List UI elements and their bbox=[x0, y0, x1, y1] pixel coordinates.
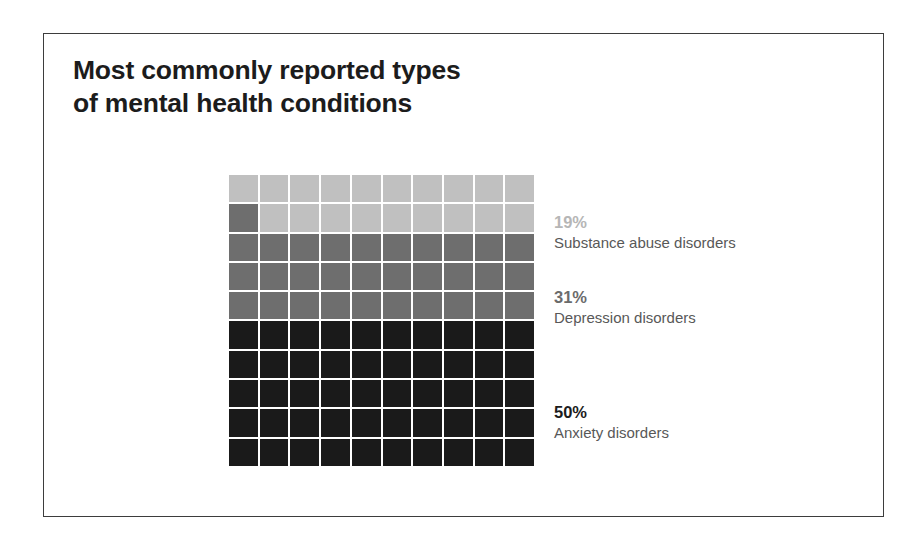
waffle-cell bbox=[444, 204, 473, 231]
waffle-cell bbox=[321, 234, 350, 261]
waffle-cell bbox=[444, 380, 473, 407]
waffle-cell bbox=[475, 321, 504, 348]
waffle-cell bbox=[413, 234, 442, 261]
legend-value: 19% bbox=[554, 212, 854, 233]
waffle-cell bbox=[413, 321, 442, 348]
waffle-cell bbox=[505, 204, 534, 231]
waffle-cell bbox=[260, 204, 289, 231]
waffle-cell bbox=[383, 321, 412, 348]
waffle-cell bbox=[475, 234, 504, 261]
waffle-cell bbox=[290, 351, 319, 378]
waffle-cell bbox=[444, 175, 473, 202]
waffle-cell bbox=[444, 263, 473, 290]
waffle-cell bbox=[413, 439, 442, 466]
waffle-cell bbox=[475, 175, 504, 202]
waffle-cell bbox=[505, 263, 534, 290]
waffle-cell bbox=[260, 380, 289, 407]
legend-label: Anxiety disorders bbox=[554, 424, 854, 443]
waffle-cell bbox=[229, 234, 258, 261]
waffle-cell bbox=[444, 351, 473, 378]
waffle-cell bbox=[413, 204, 442, 231]
waffle-cell bbox=[352, 204, 381, 231]
waffle-cell bbox=[505, 380, 534, 407]
waffle-cell bbox=[321, 409, 350, 436]
waffle-cell bbox=[352, 234, 381, 261]
legend-item: 31%Depression disorders bbox=[554, 287, 854, 327]
waffle-cell bbox=[475, 409, 504, 436]
page-title: Most commonly reported types of mental h… bbox=[73, 54, 593, 121]
waffle-cell bbox=[229, 175, 258, 202]
waffle-cell bbox=[352, 351, 381, 378]
waffle-cell bbox=[260, 409, 289, 436]
waffle-cell bbox=[413, 351, 442, 378]
waffle-cell bbox=[383, 439, 412, 466]
waffle-cell bbox=[505, 321, 534, 348]
waffle-cell bbox=[352, 380, 381, 407]
waffle-cell bbox=[475, 204, 504, 231]
waffle-cell bbox=[383, 292, 412, 319]
waffle-cell bbox=[229, 439, 258, 466]
waffle-cell bbox=[290, 263, 319, 290]
infographic-card: Most commonly reported types of mental h… bbox=[43, 33, 884, 517]
waffle-cell bbox=[321, 439, 350, 466]
waffle-cell bbox=[505, 234, 534, 261]
waffle-cell bbox=[229, 409, 258, 436]
waffle-cell bbox=[413, 263, 442, 290]
waffle-cell bbox=[260, 292, 289, 319]
waffle-cell bbox=[383, 380, 412, 407]
waffle-cell bbox=[383, 234, 412, 261]
waffle-cell bbox=[413, 175, 442, 202]
waffle-cell bbox=[444, 409, 473, 436]
waffle-cell bbox=[290, 439, 319, 466]
waffle-cell bbox=[505, 351, 534, 378]
waffle-cell bbox=[290, 175, 319, 202]
legend-item: 19%Substance abuse disorders bbox=[554, 212, 854, 252]
waffle-cell bbox=[413, 409, 442, 436]
waffle-cell bbox=[352, 321, 381, 348]
waffle-cell bbox=[444, 234, 473, 261]
waffle-cell bbox=[290, 409, 319, 436]
waffle-cell bbox=[260, 263, 289, 290]
waffle-cell bbox=[229, 321, 258, 348]
waffle-cell bbox=[321, 380, 350, 407]
waffle-chart-grid bbox=[229, 175, 534, 466]
waffle-cell bbox=[321, 321, 350, 348]
waffle-cell bbox=[383, 175, 412, 202]
waffle-cell bbox=[229, 292, 258, 319]
legend-label: Depression disorders bbox=[554, 309, 854, 328]
waffle-cell bbox=[383, 409, 412, 436]
waffle-cell bbox=[475, 380, 504, 407]
waffle-cell bbox=[290, 234, 319, 261]
waffle-cell bbox=[352, 409, 381, 436]
waffle-cell bbox=[229, 204, 258, 231]
waffle-cell bbox=[290, 321, 319, 348]
waffle-cell bbox=[383, 351, 412, 378]
waffle-cell bbox=[229, 380, 258, 407]
waffle-cell bbox=[352, 175, 381, 202]
waffle-cell bbox=[260, 321, 289, 348]
waffle-cell bbox=[413, 292, 442, 319]
waffle-cell bbox=[229, 263, 258, 290]
waffle-cell bbox=[352, 439, 381, 466]
waffle-cell bbox=[505, 409, 534, 436]
waffle-cell bbox=[321, 175, 350, 202]
waffle-cell bbox=[321, 292, 350, 319]
waffle-cell bbox=[321, 204, 350, 231]
waffle-cell bbox=[505, 175, 534, 202]
waffle-cell bbox=[321, 351, 350, 378]
legend-value: 50% bbox=[554, 402, 854, 423]
waffle-cell bbox=[413, 380, 442, 407]
waffle-cell bbox=[444, 321, 473, 348]
waffle-cell bbox=[475, 263, 504, 290]
waffle-cell bbox=[290, 292, 319, 319]
waffle-cell bbox=[475, 439, 504, 466]
legend-item: 50%Anxiety disorders bbox=[554, 402, 854, 442]
waffle-cell bbox=[229, 351, 258, 378]
waffle-cell bbox=[352, 263, 381, 290]
waffle-cell bbox=[321, 263, 350, 290]
waffle-cell bbox=[260, 439, 289, 466]
waffle-cell bbox=[290, 204, 319, 231]
waffle-cell bbox=[383, 263, 412, 290]
legend-label: Substance abuse disorders bbox=[554, 234, 854, 253]
waffle-cell bbox=[260, 175, 289, 202]
